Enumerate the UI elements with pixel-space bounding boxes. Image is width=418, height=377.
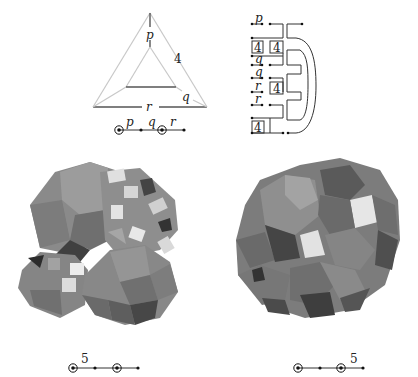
coxeter-diagram-right: 5: [294, 352, 365, 372]
node-1: [296, 366, 300, 370]
coxeter-label-q: q: [148, 115, 156, 129]
coxeter-label-5: 5: [350, 352, 358, 366]
comb-label-r2: r: [255, 92, 262, 106]
comb-diagram: p 4 4 q q r 4 r 4: [251, 11, 316, 135]
coxeter-diagram-left: 5: [69, 352, 140, 372]
coxeter-label-p: p: [126, 115, 134, 129]
node-4: [182, 128, 185, 131]
polyhedron-right: [236, 158, 400, 318]
label-r: r: [146, 100, 153, 114]
node-2: [139, 128, 142, 131]
figure-canvas: p 4 q r p q r: [0, 0, 418, 377]
outer-left-edge: [93, 13, 150, 107]
inner-right-edge: [150, 47, 176, 87]
comb-label-q1: q: [255, 52, 263, 66]
node-2: [93, 366, 96, 369]
comb-box-label-4: 4: [254, 121, 262, 135]
comb-box-label-3: 4: [273, 82, 281, 96]
node-2: [318, 366, 321, 369]
comb-box-label-2: 4: [273, 41, 281, 55]
label-p: p: [146, 28, 154, 42]
node-3: [339, 366, 343, 370]
label-4: 4: [174, 52, 182, 66]
triangle-diagram: p 4 q r: [93, 13, 207, 114]
polyhedron-left: [18, 162, 178, 325]
label-q: q: [182, 90, 190, 104]
node-3: [160, 128, 164, 132]
node-4: [136, 366, 139, 369]
coxeter-label-5: 5: [81, 352, 89, 366]
coxeter-diagram-top: p q r: [115, 115, 186, 134]
node-1: [71, 366, 75, 370]
comb-label-p: p: [255, 11, 263, 25]
comb-label-r1: r: [255, 79, 262, 93]
node-1: [117, 128, 121, 132]
node-4: [361, 366, 364, 369]
left-connector: [93, 87, 126, 107]
coxeter-label-r: r: [170, 115, 177, 129]
inner-left-edge: [126, 47, 150, 87]
node-3: [115, 366, 119, 370]
comb-label-q2: q: [255, 65, 263, 79]
